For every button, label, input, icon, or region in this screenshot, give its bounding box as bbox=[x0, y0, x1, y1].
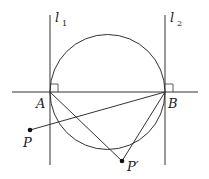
right-angle-mark-a bbox=[50, 84, 58, 92]
point-p bbox=[28, 128, 33, 133]
geometry-diagram: l 1 l 2 A B P P′ bbox=[0, 0, 209, 179]
label-l2-subscript: 2 bbox=[177, 19, 182, 28]
label-l1-subscript: 1 bbox=[62, 19, 67, 28]
point-p-prime bbox=[120, 159, 125, 164]
label-b: B bbox=[167, 96, 178, 111]
label-a: A bbox=[35, 96, 45, 111]
label-l2: l bbox=[170, 10, 174, 25]
diagram-svg: l 1 l 2 A B P P′ bbox=[0, 0, 209, 179]
right-angle-mark-b bbox=[165, 84, 173, 92]
label-p-prime: P′ bbox=[126, 159, 139, 174]
segment-ap-prime bbox=[50, 92, 122, 161]
label-l1: l bbox=[55, 10, 59, 25]
label-p: P bbox=[22, 135, 32, 150]
